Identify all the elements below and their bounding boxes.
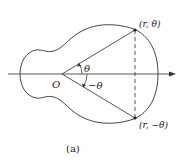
polar-symmetry-diagram: O θ −θ (r, θ) (r, −θ) (a) — [0, 0, 188, 163]
axis-arrow-icon — [169, 72, 176, 77]
angle-lower-label: −θ — [88, 80, 102, 91]
origin-label: O — [52, 79, 60, 90]
figure-caption: (a) — [66, 143, 80, 154]
point-upper — [133, 28, 136, 31]
point-lower — [133, 116, 136, 119]
angle-upper-label: θ — [84, 63, 90, 74]
point-lower-label: (r, −θ) — [139, 120, 169, 130]
point-upper-label: (r, θ) — [139, 19, 161, 29]
